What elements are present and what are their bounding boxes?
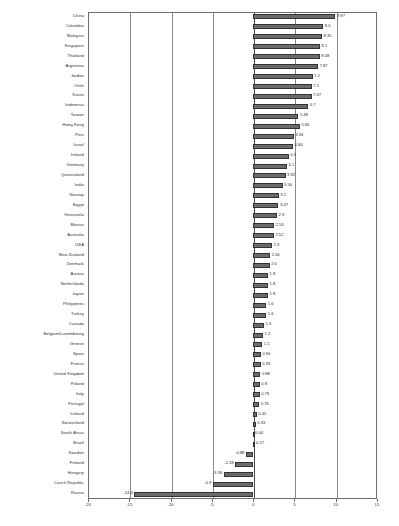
category-label: Turkey bbox=[0, 310, 84, 318]
bar-row: Spain0.94 bbox=[0, 351, 399, 359]
bar-row: Queensland3.92 bbox=[0, 172, 399, 180]
category-label: Malaysia bbox=[0, 32, 84, 40]
bar-value-label: 3.1 bbox=[280, 191, 286, 199]
bar-row: Malaysia8.35 bbox=[0, 33, 399, 41]
bar-value-label: 3.07 bbox=[280, 201, 288, 209]
x-tick-label: -15 bbox=[126, 502, 132, 507]
category-label: Iceland bbox=[0, 410, 84, 418]
category-label: Portugal bbox=[0, 400, 84, 408]
bar-row: Iceland0.45 bbox=[0, 411, 399, 419]
bar-row: Mexico2.53 bbox=[0, 222, 399, 230]
bar-value-label: 1.8 bbox=[270, 290, 276, 298]
bar-value-label: 0.8 bbox=[261, 380, 267, 388]
category-label: Norway bbox=[0, 191, 84, 199]
bar bbox=[235, 462, 253, 467]
category-label: Egypt bbox=[0, 201, 84, 209]
bar-value-label: 4.94 bbox=[295, 131, 303, 139]
bar bbox=[253, 173, 285, 178]
bar-value-label: 8.35 bbox=[324, 32, 332, 40]
x-tick-label: -20 bbox=[85, 502, 91, 507]
bar-row: Poland0.8 bbox=[0, 381, 399, 389]
bar bbox=[253, 144, 293, 149]
bar-value-label: 0.94 bbox=[262, 350, 270, 358]
bar-row: Philippines1.6 bbox=[0, 301, 399, 309]
bar-row: China9.97 bbox=[0, 13, 399, 21]
bar bbox=[213, 482, 253, 487]
bar-row: Sweden-0.88 bbox=[0, 450, 399, 458]
bar-row: Greece1.1 bbox=[0, 341, 399, 349]
bar-value-label: 0.33 bbox=[257, 419, 265, 427]
bar-value-label: 1.3 bbox=[265, 320, 271, 328]
category-label: Greece bbox=[0, 340, 84, 348]
bar-row: Germany4.1 bbox=[0, 162, 399, 170]
bar-value-label: -2.18 bbox=[224, 459, 233, 467]
bar-row: Jordan7.2 bbox=[0, 73, 399, 81]
bar-value-label: 1.1 bbox=[264, 340, 270, 348]
bar bbox=[253, 44, 320, 49]
bar-value-label: -0.88 bbox=[235, 449, 244, 457]
bar-row: Switzerland0.33 bbox=[0, 420, 399, 428]
bar-row: United Kingdom0.88 bbox=[0, 371, 399, 379]
category-label: Netherlands bbox=[0, 280, 84, 288]
bar bbox=[253, 283, 268, 288]
bar bbox=[253, 313, 266, 318]
bar-row: Canada1.3 bbox=[0, 321, 399, 329]
category-label: USA bbox=[0, 241, 84, 249]
category-label: Australia bbox=[0, 231, 84, 239]
bar-value-label: 7.1 bbox=[313, 82, 319, 90]
bar bbox=[253, 303, 266, 308]
bar bbox=[253, 392, 260, 397]
bar-value-label: 5.66 bbox=[301, 121, 309, 129]
bar-value-label: 0.93 bbox=[262, 360, 270, 368]
category-label: Peru bbox=[0, 131, 84, 139]
bar bbox=[224, 472, 254, 477]
category-label: Italy bbox=[0, 390, 84, 398]
bar-value-label: -14.4 bbox=[123, 489, 132, 497]
bar-row: Australia2.52 bbox=[0, 232, 399, 240]
category-label: Philippines bbox=[0, 300, 84, 308]
bar-value-label: 4.84 bbox=[295, 141, 303, 149]
bar bbox=[253, 164, 287, 169]
bar-value-label: 9.97 bbox=[337, 12, 345, 20]
bar bbox=[253, 323, 264, 328]
bar bbox=[246, 452, 253, 457]
x-tick-label: 10 bbox=[333, 502, 338, 507]
category-label: United Kingdom bbox=[0, 370, 84, 378]
bar-value-label: 1.6 bbox=[268, 300, 274, 308]
category-label: Israel bbox=[0, 141, 84, 149]
bar-value-label: 1.8 bbox=[270, 280, 276, 288]
bar bbox=[253, 273, 268, 278]
bar bbox=[253, 193, 279, 198]
bar-value-label: 7.2 bbox=[314, 72, 320, 80]
category-label: China bbox=[0, 12, 84, 20]
bar-row: Italy0.79 bbox=[0, 391, 399, 399]
bar bbox=[253, 154, 289, 159]
bar-value-label: 0.04 bbox=[255, 429, 263, 437]
bar-row: Peru4.94 bbox=[0, 132, 399, 140]
category-label: Jordan bbox=[0, 72, 84, 80]
bar-row: Korea7.07 bbox=[0, 92, 399, 100]
bar-value-label: 2.3 bbox=[274, 241, 280, 249]
bar-row: Belgium/Luxembourg1.2 bbox=[0, 331, 399, 339]
bar bbox=[253, 134, 294, 139]
category-label: Singapore bbox=[0, 42, 84, 50]
bar-row: Czech Republic-4.9 bbox=[0, 480, 399, 488]
category-label: Hong Kong bbox=[0, 121, 84, 129]
bar-row: Chile7.1 bbox=[0, 83, 399, 91]
bar-row: Egypt3.07 bbox=[0, 202, 399, 210]
bar-row: Turkey1.6 bbox=[0, 311, 399, 319]
bar bbox=[134, 492, 253, 497]
bar bbox=[253, 74, 312, 79]
bar-row: Israel4.84 bbox=[0, 142, 399, 150]
category-label: South Africa bbox=[0, 429, 84, 437]
bar-row: New Zealand2.06 bbox=[0, 252, 399, 260]
bar-value-label: 4.1 bbox=[288, 161, 294, 169]
category-label: Sweden bbox=[0, 449, 84, 457]
bar-rows: China9.97Columbia8.5Malaysia8.35Singapor… bbox=[0, 0, 399, 487]
bar-value-label: 3.56 bbox=[284, 181, 292, 189]
bar bbox=[253, 114, 298, 119]
bar-row: Columbia8.5 bbox=[0, 23, 399, 31]
category-label: Finland bbox=[0, 459, 84, 467]
bar bbox=[253, 243, 272, 248]
bar-value-label: 4.3 bbox=[290, 151, 296, 159]
